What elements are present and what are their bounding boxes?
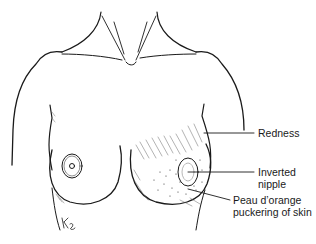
left-nipple [70, 164, 75, 169]
sternocleidomastoid-right [136, 16, 156, 60]
shoulder-left [12, 52, 62, 166]
sternocleidomastoid-left [102, 16, 125, 60]
label-peau-dorange: Peau d’orange puckering of skin [233, 194, 312, 218]
neck-right [157, 12, 196, 52]
left-shading [52, 112, 64, 203]
armpit-right [202, 104, 211, 168]
label-inverted-nipple: Inverted nipple [258, 166, 296, 190]
neck-left [62, 12, 101, 52]
label-redness: Redness [258, 127, 299, 139]
clavicle-right [140, 54, 196, 58]
left-areola-inner [64, 156, 80, 176]
artist-signature-icon [62, 218, 75, 230]
left-breast-outline [50, 146, 122, 204]
left-areola [62, 154, 82, 178]
jugular-notch [126, 62, 136, 65]
right-breast-outline [130, 144, 210, 204]
clavicle-left [62, 54, 122, 60]
right-side-line [196, 190, 205, 230]
